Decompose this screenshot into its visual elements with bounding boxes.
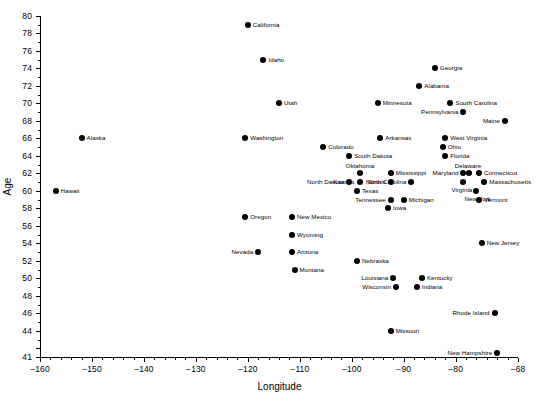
data-point-label: Kansas [334, 179, 355, 185]
data-point[interactable] [242, 135, 248, 141]
data-point[interactable] [289, 214, 295, 220]
data-point-label: New Mexico [297, 214, 331, 220]
data-point[interactable] [385, 205, 391, 211]
y-axis-title: Age [2, 167, 13, 207]
data-point-label: Oregon [250, 214, 271, 220]
data-point-label: Connecticut [484, 170, 517, 176]
data-point[interactable] [260, 57, 266, 63]
data-point[interactable] [393, 284, 399, 290]
x-tick-minor [71, 358, 72, 360]
data-point[interactable] [377, 135, 383, 141]
data-point-label: Idaho [268, 57, 284, 63]
x-tick-minor [341, 358, 342, 360]
data-point[interactable] [79, 135, 85, 141]
x-tick-label: −68 [498, 364, 538, 374]
y-tick-minor [38, 305, 40, 306]
x-tick-label: −110 [280, 364, 320, 374]
x-tick-minor [279, 358, 280, 360]
x-tick-major [518, 358, 519, 362]
data-point-label: South Carolina [455, 100, 497, 106]
data-point[interactable] [245, 22, 251, 28]
data-point[interactable] [401, 197, 407, 203]
data-point[interactable] [481, 179, 487, 185]
data-point-label: Tennessee [355, 197, 385, 203]
data-point-label: New Jersey [487, 240, 520, 246]
x-tick-minor [134, 358, 135, 360]
x-tick-label: −100 [332, 364, 372, 374]
data-point[interactable] [289, 232, 295, 238]
data-point[interactable] [408, 179, 414, 185]
data-point[interactable] [419, 275, 425, 281]
data-point[interactable] [460, 109, 466, 115]
data-point[interactable] [502, 118, 508, 124]
x-tick-minor [487, 358, 488, 360]
data-point[interactable] [494, 350, 500, 356]
y-tick-label: 56 [0, 221, 32, 231]
data-point[interactable] [255, 249, 261, 255]
x-tick-label: −80 [436, 364, 476, 374]
data-point[interactable] [53, 188, 59, 194]
data-point[interactable] [354, 188, 360, 194]
y-tick-label: 66 [0, 133, 32, 143]
data-point[interactable] [460, 179, 466, 185]
x-tick-major [352, 358, 353, 362]
y-tick-label: 68 [0, 116, 32, 126]
y-tick-label: 50 [0, 273, 32, 283]
data-point-label: Nevada [232, 249, 254, 255]
data-point-label: North Carolina [366, 179, 407, 185]
data-point[interactable] [320, 144, 326, 150]
data-point[interactable] [346, 153, 352, 159]
data-point[interactable] [442, 153, 448, 159]
y-tick-major [36, 121, 40, 122]
data-point[interactable] [276, 100, 282, 106]
y-tick-label: 74 [0, 63, 32, 73]
data-point[interactable] [432, 65, 438, 71]
y-tick-label: 41 [0, 352, 32, 362]
data-point[interactable] [390, 275, 396, 281]
data-point-label: South Dakota [354, 153, 392, 159]
x-tick-minor [237, 358, 238, 360]
data-point[interactable] [416, 83, 422, 89]
x-tick-minor [445, 358, 446, 360]
data-point[interactable] [440, 144, 446, 150]
x-tick-minor [165, 358, 166, 360]
data-point-label: Wyoming [297, 232, 323, 238]
x-tick-minor [50, 358, 51, 360]
data-point-label: Vermont [484, 197, 507, 203]
data-point[interactable] [388, 328, 394, 334]
data-point-label: Mississippi [396, 170, 426, 176]
data-point[interactable] [442, 135, 448, 141]
y-tick-label: 44 [0, 326, 32, 336]
data-point[interactable] [447, 100, 453, 106]
x-tick-major [144, 358, 145, 362]
data-point[interactable] [466, 170, 472, 176]
data-point[interactable] [242, 214, 248, 220]
x-tick-major [92, 358, 93, 362]
data-point[interactable] [375, 100, 381, 106]
y-tick-minor [38, 60, 40, 61]
data-point[interactable] [292, 267, 298, 273]
data-point[interactable] [388, 197, 394, 203]
x-tick-minor [424, 358, 425, 360]
data-point[interactable] [476, 197, 482, 203]
data-point[interactable] [357, 179, 363, 185]
y-tick-major [36, 156, 40, 157]
x-tick-minor [383, 358, 384, 360]
data-point[interactable] [492, 310, 498, 316]
x-tick-minor [227, 358, 228, 360]
data-point[interactable] [354, 258, 360, 264]
data-point[interactable] [479, 240, 485, 246]
y-tick-minor [38, 25, 40, 26]
x-tick-major [196, 358, 197, 362]
x-tick-minor [258, 358, 259, 360]
data-point[interactable] [473, 188, 479, 194]
data-point[interactable] [414, 284, 420, 290]
data-point-label: Arizona [297, 249, 318, 255]
data-point[interactable] [289, 249, 295, 255]
x-tick-minor [393, 358, 394, 360]
data-point[interactable] [388, 170, 394, 176]
x-tick-minor [476, 358, 477, 360]
x-tick-minor [331, 358, 332, 360]
data-point[interactable] [357, 170, 363, 176]
data-point[interactable] [476, 170, 482, 176]
